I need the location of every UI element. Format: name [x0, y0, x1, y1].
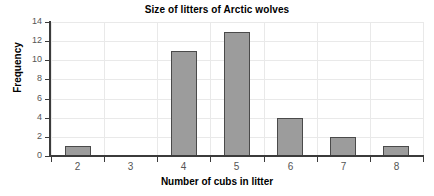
y-axis-tick	[45, 156, 50, 157]
y-axis-tick-label-text: 14	[12, 16, 42, 26]
x-axis-tick-label: 4	[157, 161, 210, 172]
y-axis-tick-label-text: 12	[12, 35, 42, 45]
gridline-vertical	[210, 22, 211, 156]
x-axis-tick-label: 3	[104, 161, 157, 172]
gridline-vertical	[317, 22, 318, 156]
y-axis-tick-label: 0	[10, 150, 42, 160]
y-axis-tick-label-text: 0	[12, 150, 42, 160]
plot-area	[51, 22, 423, 156]
chart-title: Size of litters of Arctic wolves	[0, 4, 434, 15]
y-axis-tick-label: 14	[10, 16, 42, 26]
y-axis-tick	[45, 60, 50, 61]
x-axis-tick-label: 7	[317, 161, 370, 172]
gridline-vertical	[104, 22, 105, 156]
gridline-vertical	[51, 22, 52, 156]
y-axis-tick-label: 4	[10, 112, 42, 122]
bar	[330, 137, 356, 156]
x-axis-label: Number of cubs in litter	[0, 176, 434, 187]
bar-chart: Size of litters of Arctic wolves Frequen…	[0, 0, 434, 196]
x-axis-tick-label: 8	[370, 161, 423, 172]
x-axis-tick-label: 6	[264, 161, 317, 172]
y-axis-tick-label-text: 6	[12, 93, 42, 103]
y-axis-tick	[45, 118, 50, 119]
bar	[277, 118, 303, 156]
y-axis-tick-label: 2	[10, 131, 42, 141]
gridline-vertical	[370, 22, 371, 156]
x-axis-tick-label: 2	[51, 161, 104, 172]
y-axis-tick-label-text: 10	[12, 54, 42, 64]
gridline-vertical	[157, 22, 158, 156]
y-axis-tick	[45, 99, 50, 100]
x-axis-tick-label: 5	[210, 161, 263, 172]
y-axis-tick-label: 6	[10, 93, 42, 103]
y-axis-tick	[45, 79, 50, 80]
y-axis-tick-label: 8	[10, 73, 42, 83]
gridline-horizontal	[51, 22, 423, 23]
y-axis-tick	[45, 22, 50, 23]
x-axis-line	[49, 155, 424, 157]
bar	[224, 32, 250, 156]
gridline-vertical	[264, 22, 265, 156]
y-axis-tick-label: 10	[10, 54, 42, 64]
y-axis-tick-label: 12	[10, 35, 42, 45]
y-axis-tick-label-text: 4	[12, 112, 42, 122]
y-axis-tick-label-text: 2	[12, 131, 42, 141]
x-axis-tick	[423, 157, 424, 162]
y-axis-tick-label-text: 8	[12, 73, 42, 83]
y-axis-tick	[45, 41, 50, 42]
bar	[171, 51, 197, 156]
y-axis-tick	[45, 137, 50, 138]
gridline-vertical	[423, 22, 424, 156]
